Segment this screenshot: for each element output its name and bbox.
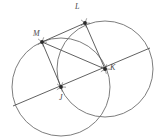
circles-group	[12, 21, 153, 136]
diagonal-line-group	[13, 48, 150, 106]
point-K	[103, 67, 107, 71]
label-K: K	[110, 64, 115, 72]
segment-ML	[42, 23, 85, 42]
point-J	[59, 85, 63, 89]
geometry-canvas	[0, 0, 156, 139]
label-M: M	[33, 30, 40, 38]
point-L	[83, 21, 87, 25]
geometry-figure: MLKJ	[0, 0, 156, 139]
point-dots-group	[40, 21, 107, 89]
label-J: J	[59, 94, 63, 102]
point-M	[40, 40, 44, 44]
line-JK-extended	[13, 48, 150, 106]
label-L: L	[75, 3, 79, 11]
